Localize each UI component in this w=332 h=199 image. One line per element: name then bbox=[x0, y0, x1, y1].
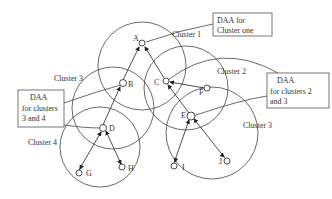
callout-daa-cluster-one: DAA for Cluster one bbox=[213, 13, 272, 36]
callout-line: for clusters 2 bbox=[270, 87, 312, 96]
edge-i-e bbox=[174, 120, 189, 163]
label-i: I bbox=[182, 163, 185, 172]
callout-line: DAA bbox=[30, 93, 48, 102]
node-i bbox=[171, 163, 177, 169]
node-g bbox=[76, 170, 82, 176]
node-d bbox=[100, 125, 107, 132]
label-g: G bbox=[86, 169, 92, 178]
cluster-2-label: Cluster 2 bbox=[217, 67, 246, 76]
connector-clusters-3-4-bottom bbox=[64, 125, 101, 128]
node-b bbox=[120, 80, 127, 87]
callout-line: for clusters bbox=[22, 104, 58, 113]
cluster-1-label: Cluster 1 bbox=[172, 30, 201, 39]
leaf-arrowheads bbox=[80, 154, 224, 169]
edge-c-a bbox=[145, 47, 164, 78]
label-e: E bbox=[181, 111, 186, 120]
label-f: F bbox=[199, 88, 204, 97]
label-b: B bbox=[128, 80, 133, 89]
label-c: C bbox=[154, 78, 159, 87]
cluster-3-left-label: Cluster 3 bbox=[54, 74, 83, 83]
arrow-to-h bbox=[119, 160, 121, 164]
edge-j-e bbox=[194, 119, 225, 158]
cluster-3-right-label: Cluster 3 bbox=[243, 121, 272, 130]
callout-daa-clusters-3-4: DAA for clusters 3 and 4 bbox=[18, 90, 64, 127]
callout-line: DAA for bbox=[217, 16, 246, 25]
node-c bbox=[163, 78, 169, 84]
callout-daa-clusters-2-3: DAA for clusters 2 and 3 bbox=[267, 73, 329, 108]
node-j bbox=[224, 158, 230, 164]
connector-clusters-2-3-bottom bbox=[193, 96, 267, 116]
callout-line: and 3 bbox=[270, 97, 288, 106]
node-e bbox=[187, 112, 195, 120]
node-h bbox=[119, 164, 125, 170]
edge-h-d bbox=[106, 131, 121, 164]
edge-b-a bbox=[123, 47, 139, 80]
callout-line: 3 and 4 bbox=[22, 114, 46, 123]
cluster-3-left-circle bbox=[72, 67, 154, 149]
node-a bbox=[139, 40, 145, 46]
daa-cluster-diagram: A B C F D E G H I J Cluster 1 Cluster 2 … bbox=[0, 0, 332, 199]
label-a: A bbox=[133, 34, 139, 43]
callout-line: Cluster one bbox=[217, 26, 254, 35]
label-j: J bbox=[219, 157, 222, 166]
callout-line: DAA bbox=[277, 76, 295, 85]
cluster-4-label: Cluster 4 bbox=[28, 138, 57, 147]
cluster-labels: Cluster 1 Cluster 2 Cluster 3 Cluster 3 … bbox=[28, 30, 272, 147]
edge-d-b bbox=[103, 87, 120, 125]
label-d: D bbox=[109, 124, 115, 133]
connector-clusters-3-4-top bbox=[64, 84, 124, 103]
node-f bbox=[204, 85, 210, 91]
label-h: H bbox=[128, 164, 134, 173]
edge-g-d bbox=[79, 132, 101, 170]
